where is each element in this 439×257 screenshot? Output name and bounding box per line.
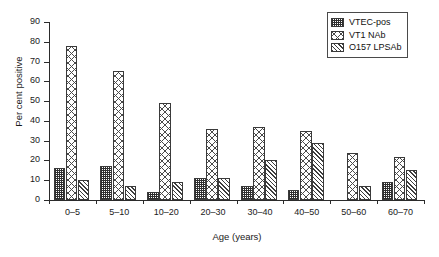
bar-vt1-nab (300, 131, 312, 200)
x-tick (283, 200, 284, 204)
legend-swatch-vtec-pos-icon (331, 18, 344, 27)
x-tick-label: 10–20 (143, 207, 189, 217)
legend-label: O157 LPSAb (349, 43, 402, 52)
x-tick (190, 200, 191, 204)
x-tick (330, 200, 331, 204)
bar-group (100, 22, 136, 200)
x-tick-label: 20–30 (190, 207, 236, 217)
legend: VTEC-pos VT1 NAb O157 LPSAb (327, 12, 408, 58)
bar-o157-lpsab (172, 182, 184, 200)
bar-vtec-pos (100, 166, 112, 200)
bar-group (194, 22, 230, 200)
x-tick (424, 200, 425, 204)
x-tick-label: 60–70 (378, 207, 424, 217)
bar-vt1-nab (113, 71, 125, 200)
bar-vtec-pos (241, 186, 253, 200)
x-tick (377, 200, 378, 204)
y-axis-title: Per cent positive (13, 22, 24, 162)
bar-vtec-pos (382, 182, 394, 200)
bar-vtec-pos (54, 168, 66, 200)
bar-vtec-pos (288, 190, 300, 200)
bar-group (241, 22, 277, 200)
bar-vt1-nab (206, 129, 218, 200)
x-tick-label: 40–50 (284, 207, 330, 217)
legend-swatch-vt1-nab-icon (331, 31, 344, 40)
x-tick (143, 200, 144, 204)
bar-vt1-nab (66, 46, 78, 200)
bar-vtec-pos (194, 178, 206, 200)
x-tick-label: 0–5 (49, 207, 95, 217)
x-tick-label: 30–40 (237, 207, 283, 217)
bar-group (147, 22, 183, 200)
legend-swatch-o157-lpsab-icon (331, 43, 344, 52)
legend-item: VT1 NAb (331, 29, 402, 41)
bar-vt1-nab (159, 103, 171, 200)
bar-o157-lpsab (218, 178, 230, 200)
bar-o157-lpsab (265, 160, 277, 200)
legend-label: VT1 NAb (349, 31, 386, 40)
bar-o157-lpsab (78, 180, 90, 200)
y-tick-label: 10 (14, 175, 40, 184)
legend-item: O157 LPSAb (331, 42, 402, 54)
x-tick-label: 5–10 (96, 207, 142, 217)
bar-group (54, 22, 90, 200)
x-tick-label: 50–60 (331, 207, 377, 217)
x-tick (96, 200, 97, 204)
bar-group (288, 22, 324, 200)
bar-vtec-pos (147, 192, 159, 200)
legend-label: VTEC-pos (349, 18, 391, 27)
bar-vt1-nab (253, 127, 265, 200)
bar-o157-lpsab (406, 170, 418, 200)
legend-item: VTEC-pos (331, 17, 402, 29)
bar-chart-figure: 0102030405060708090 0–55–1010–2020–3030–… (0, 0, 439, 257)
x-tick (237, 200, 238, 204)
bar-vt1-nab (394, 157, 406, 201)
x-tick (49, 200, 50, 204)
bar-o157-lpsab (312, 143, 324, 200)
x-axis-title: Age (years) (49, 231, 425, 242)
bar-o157-lpsab (359, 186, 371, 200)
bar-o157-lpsab (125, 186, 137, 200)
bar-vt1-nab (347, 153, 359, 200)
y-tick-label: 0 (14, 195, 40, 204)
